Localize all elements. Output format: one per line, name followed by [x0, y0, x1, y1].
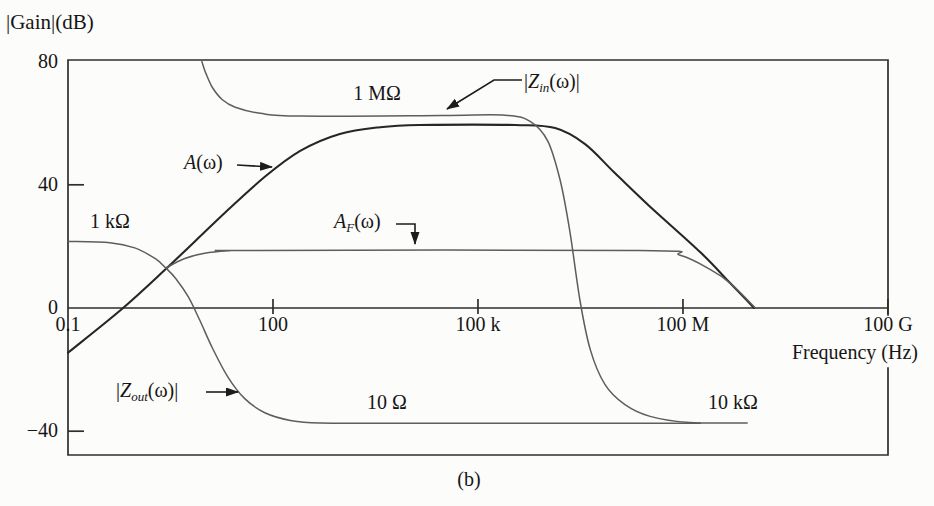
- label-closed-loop-gain: AF(ω): [334, 210, 381, 239]
- curve-AF: [166, 250, 756, 308]
- curve-Zin: [202, 62, 747, 424]
- label-open-loop-gain: A(ω): [184, 151, 223, 174]
- plot-frame: [68, 60, 888, 455]
- label-input-impedance: |Zin(ω)|: [524, 70, 580, 99]
- curve-A: [68, 125, 754, 353]
- x-tick-label-0.1: 0.1: [56, 313, 81, 336]
- label-1-kiloohm: 1 kΩ: [90, 210, 130, 233]
- af-subscript: F: [346, 220, 354, 235]
- zout-symbol: Z: [120, 379, 131, 401]
- af-label-arrow: [396, 224, 415, 244]
- zin-symbol: Z: [528, 70, 539, 92]
- a-label-arrow: [237, 165, 272, 167]
- zout-omega: (ω)|: [148, 379, 179, 401]
- gain-axis-label: |Gain|(dB): [6, 11, 94, 34]
- y-tick-label-40: 40: [10, 173, 58, 196]
- y-tick-label--40: −40: [10, 419, 58, 442]
- plot-svg: [0, 0, 934, 506]
- x-tick-label-100 G: 100 G: [863, 313, 912, 336]
- a-symbol: A: [184, 151, 196, 173]
- x-tick-label-100: 100: [258, 313, 288, 336]
- x-tick-label-100 M: 100 M: [657, 313, 710, 336]
- bode-plot-figure: |Gain|(dB) Frequency (Hz) (b) 1 MΩ 1 kΩ …: [0, 0, 934, 506]
- zin-omega: (ω)|: [549, 70, 580, 92]
- label-output-impedance: |Zout(ω)|: [116, 379, 178, 408]
- af-omega: (ω): [354, 210, 380, 232]
- zout-subscript: out: [131, 389, 148, 404]
- a-omega: (ω): [196, 151, 222, 173]
- frequency-axis-label: Frequency (Hz): [690, 341, 918, 364]
- label-10-ohm: 10 Ω: [367, 391, 407, 414]
- zin-subscript: in: [539, 80, 549, 95]
- y-tick-label-80: 80: [10, 50, 58, 73]
- y-tick-label-0: 0: [10, 296, 58, 319]
- figure-caption: (b): [457, 468, 480, 491]
- x-tick-label-100 k: 100 k: [455, 313, 500, 336]
- zin-label-arrow: [447, 80, 522, 109]
- label-10-kiloohm: 10 kΩ: [708, 391, 758, 414]
- label-1-megaohm: 1 MΩ: [353, 82, 401, 105]
- curves-group: [68, 62, 755, 424]
- af-symbol: A: [334, 210, 346, 232]
